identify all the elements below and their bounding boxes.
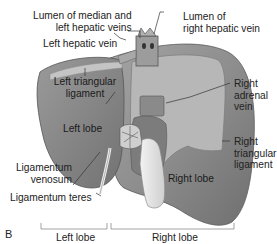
label-left-hepatic-vein: Left hepatic vein	[43, 38, 117, 50]
label-line: Right	[234, 136, 276, 148]
label-line: ligament	[52, 88, 118, 100]
label-left-lobe-inner: Left lobe	[63, 123, 102, 135]
panel-letter: B	[5, 228, 12, 240]
liver-diagram	[0, 0, 277, 244]
porta-hepatis	[120, 124, 142, 148]
vein-lumen-left	[142, 43, 146, 49]
label-line: right hepatic vein	[183, 23, 260, 35]
label-ligamentum-venosum: Ligamentum venosum	[10, 162, 72, 185]
label-line: adrenal	[234, 90, 268, 102]
vein-lumen-right	[150, 43, 154, 49]
bracket-label-right-lobe: Right lobe	[152, 232, 198, 244]
label-right-lobe-inner: Right lobe	[168, 173, 214, 185]
hepatic-vein-stump	[138, 28, 156, 36]
ivc-shape	[136, 36, 158, 66]
label-ligamentum-teres: Ligamentum teres	[10, 192, 92, 204]
label-line: triangular	[234, 148, 276, 160]
bracket-label-left-lobe: Left lobe	[56, 232, 95, 244]
label-lumen-median-left: Lumen of median and left hepatic veins	[33, 10, 132, 33]
label-line: Right	[234, 78, 268, 90]
label-lumen-right: Lumen of right hepatic vein	[183, 11, 260, 34]
label-line: venosum	[10, 174, 72, 186]
label-line: Lumen of median and	[33, 10, 132, 22]
label-line: vein	[234, 101, 268, 113]
adrenal-block	[140, 96, 164, 116]
label-line: left hepatic veins	[33, 22, 132, 34]
label-right-adrenal-vein: Right adrenal vein	[234, 78, 268, 113]
label-line: ligament	[234, 159, 276, 171]
label-line: Ligamentum	[10, 162, 72, 174]
label-left-triangular-ligament: Left triangular ligament	[52, 76, 118, 99]
lobe-brackets	[41, 223, 234, 229]
label-line: Lumen of	[183, 11, 260, 23]
label-line: Left triangular	[52, 76, 118, 88]
label-right-triangular-ligament: Right triangular ligament	[234, 136, 276, 171]
